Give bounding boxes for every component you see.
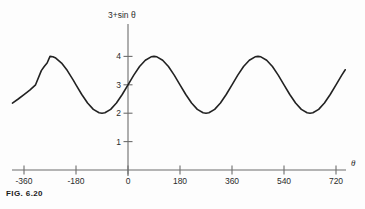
x-tick-label: -180 <box>67 176 84 186</box>
x-tick-label: 540 <box>277 176 291 186</box>
x-tick-label: 180 <box>173 176 187 186</box>
y-axis-title: 3+sin θ <box>108 10 136 20</box>
x-axis-title: θ <box>351 158 356 168</box>
x-tick-label: -360 <box>15 176 32 186</box>
sine-curve-plot: -360-1800180360540720 1234 3+sin θ θ <box>0 0 365 209</box>
x-tick-label: 720 <box>329 176 343 186</box>
y-tick-label: 1 <box>116 137 121 147</box>
y-tick-label: 3 <box>116 80 121 90</box>
y-tick-label: 4 <box>116 51 121 61</box>
x-axis-tick-labels: -360-1800180360540720 <box>15 176 343 186</box>
x-tick-label: 0 <box>126 176 131 186</box>
figure-caption: FIG. 6.20 <box>6 189 43 198</box>
x-tick-label: 360 <box>225 176 239 186</box>
figure-container: -360-1800180360540720 1234 3+sin θ θ FIG… <box>0 0 365 209</box>
curve-3-plus-sin-theta <box>12 56 345 113</box>
y-tick-label: 2 <box>116 108 121 118</box>
